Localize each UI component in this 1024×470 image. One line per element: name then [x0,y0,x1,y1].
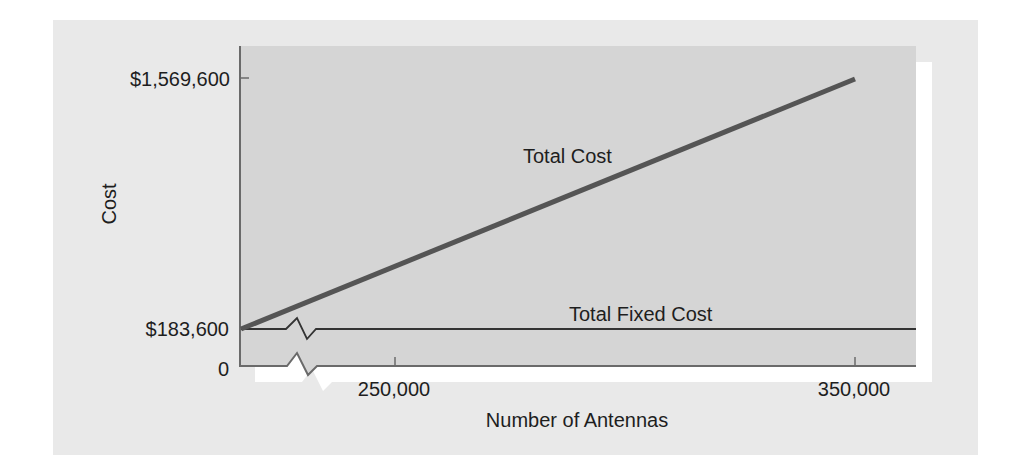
x-tick-label-350000: 350,000 [818,378,890,400]
y-tick-label-fixed: $183,600 [146,318,229,340]
cost-chart: Total Cost Total Fixed Cost $1,569,600 $… [0,0,1024,470]
y-axis-title: Cost [98,183,120,225]
y-tick-label-top: $1,569,600 [130,68,230,90]
total-fixed-cost-label: Total Fixed Cost [569,303,713,325]
y-tick-label-zero: 0 [218,358,229,380]
x-axis-title: Number of Antennas [486,409,668,431]
x-tick-label-250000: 250,000 [358,378,430,400]
total-cost-label: Total Cost [523,145,612,167]
